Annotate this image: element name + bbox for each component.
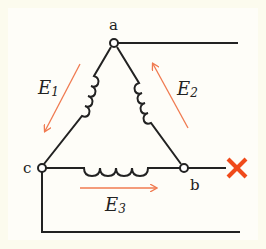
terminal-a — [110, 39, 118, 47]
terminal-b — [180, 164, 188, 172]
terminal-c — [38, 164, 46, 172]
delta-circuit-diagram: a b c E1 E2 E3 — [0, 0, 266, 249]
label-a: a — [109, 16, 118, 34]
label-b: b — [190, 176, 200, 194]
label-c: c — [23, 159, 31, 177]
